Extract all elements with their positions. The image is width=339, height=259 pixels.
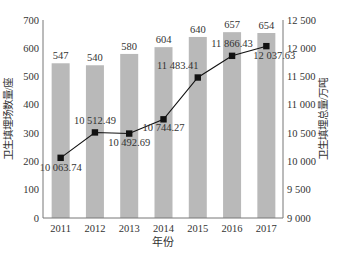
x-axis-title: 年份 <box>152 235 174 248</box>
line-marker <box>263 43 269 49</box>
line-value-label: 10 492.69 <box>108 137 150 148</box>
bar-2012 <box>86 65 104 218</box>
line-value-label: 11 866.43 <box>211 38 253 49</box>
line-value-label: 10 063.74 <box>40 162 83 173</box>
left-axis-tick-label: 200 <box>23 156 39 167</box>
right-axis-tick-label: 11 500 <box>287 71 316 82</box>
right-axis-tick-label: 9 000 <box>287 213 311 224</box>
left-axis-title: 卫生填埋场数量/座 <box>2 78 14 161</box>
bar-value-label: 657 <box>224 19 240 30</box>
line-marker <box>229 53 235 59</box>
line-marker <box>92 129 98 135</box>
bar-value-label: 654 <box>258 20 275 31</box>
bar-2011 <box>52 63 70 218</box>
x-axis-tick-label: 2013 <box>119 223 140 234</box>
bar-value-label: 580 <box>121 41 137 52</box>
left-axis-tick-label: 700 <box>23 15 39 26</box>
line-value-label: 10 744.27 <box>143 122 185 133</box>
left-axis-tick-label: 0 <box>34 213 39 224</box>
bar-value-label: 540 <box>87 52 103 63</box>
x-axis-tick-label: 2014 <box>153 223 175 234</box>
line-marker <box>195 74 201 80</box>
line-marker <box>57 155 63 161</box>
x-axis-tick-label: 2015 <box>187 223 208 234</box>
right-axis-tick-label: 12 000 <box>287 43 316 54</box>
bar-value-label: 547 <box>53 50 69 61</box>
line-value-label: 11 483.41 <box>157 60 199 71</box>
right-axis-tick-label: 9 500 <box>287 184 311 195</box>
left-axis-tick-label: 400 <box>23 99 39 110</box>
x-axis-tick-label: 2011 <box>50 223 71 234</box>
right-axis-tick-label: 10 000 <box>287 156 316 167</box>
bar-value-label: 640 <box>190 24 206 35</box>
right-axis-tick-label: 10 500 <box>287 128 316 139</box>
right-axis-title: 卫生填埋总量/万吨 <box>317 77 329 161</box>
left-axis-tick-label: 300 <box>23 128 39 139</box>
right-axis-tick-label: 11 000 <box>287 99 316 110</box>
left-axis-tick-label: 500 <box>23 71 39 82</box>
combo-chart: 547540580604640657654 10 063.7410 512.49… <box>0 0 339 259</box>
x-axis-tick-label: 2016 <box>222 223 243 234</box>
left-axis-tick-label: 600 <box>23 43 39 54</box>
line-value-label: 10 512.49 <box>74 115 116 126</box>
right-axis-tick-label: 12 500 <box>287 15 316 26</box>
bar-value-label: 604 <box>156 34 173 45</box>
left-axis-tick-label: 100 <box>23 184 39 195</box>
x-axis-tick-label: 2017 <box>256 223 277 234</box>
x-axis-tick-label: 2012 <box>84 223 105 234</box>
